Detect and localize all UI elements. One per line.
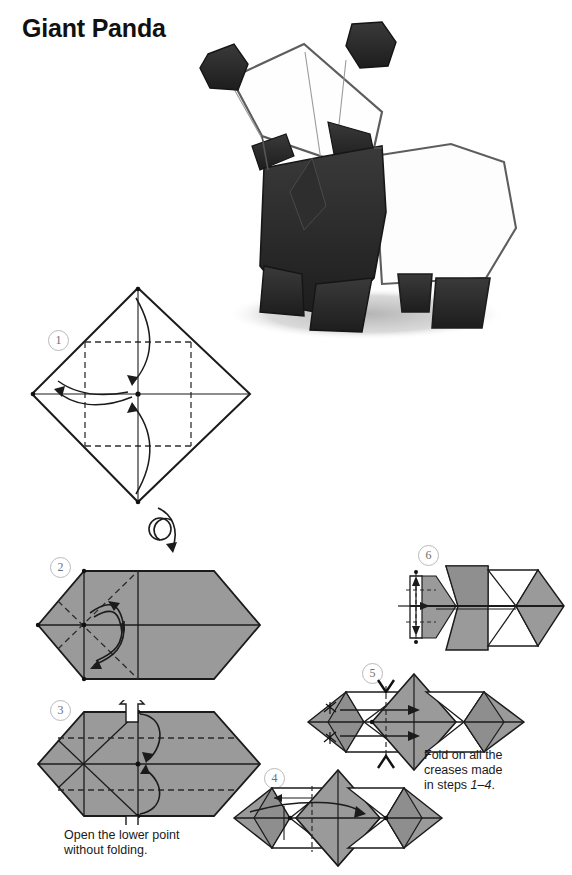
step-3-caption: Open the lower point without folding. <box>64 828 254 858</box>
step-4-diagram <box>228 766 448 874</box>
step-5-caption-line-3: in steps 1–4. <box>424 778 564 793</box>
step-3-hollow-arrow-down <box>120 816 144 825</box>
step-1-diagram <box>28 282 268 510</box>
step-5-dot-center <box>370 720 374 724</box>
step-4-dot-left <box>288 816 293 821</box>
step-6-diagram <box>396 556 572 660</box>
step-4-dot-right <box>384 816 389 821</box>
step-5-caption-line-1: Fold on all the <box>424 748 564 763</box>
step-1-dot-center <box>135 391 140 396</box>
instruction-page: Giant Panda <box>0 0 572 875</box>
step-5-caption-line-3-pre: in steps <box>424 778 471 792</box>
panda-ear-left <box>200 44 248 90</box>
step-3-dot-center <box>136 762 141 767</box>
step-6-dot-bottom <box>414 640 418 644</box>
step-1-dot-top <box>136 287 141 292</box>
step-5-caption: Fold on all the creases made in steps 1–… <box>424 748 564 793</box>
step-5-caption-line-2: creases made <box>424 763 564 778</box>
turn-over-icon <box>138 500 198 560</box>
step-2-dot-bottom <box>82 677 86 681</box>
step-3-caption-line-2: without folding. <box>64 843 254 858</box>
panda-ear-right <box>346 22 396 68</box>
step-5-caption-line-3-post: . <box>491 778 494 792</box>
step-5-pinch-bottom-icon <box>378 756 394 768</box>
panda-rear-body <box>374 144 516 284</box>
step-5-caption-steps-range: 1–4 <box>471 778 492 792</box>
panda-front-leg-right <box>310 278 372 332</box>
step-1-paper <box>32 288 250 502</box>
step-2-dot-top <box>82 569 86 573</box>
step-2-dot-left <box>36 623 40 627</box>
step-2-diagram <box>28 565 268 685</box>
step-6-dot-top <box>414 570 418 574</box>
page-title: Giant Panda <box>22 14 166 43</box>
step-1-dot-left <box>31 392 36 397</box>
panda-rear-leg-far <box>398 274 432 312</box>
step-2-dot-center <box>82 623 87 628</box>
panda-rear-leg-near <box>432 278 490 328</box>
step-3-caption-line-1: Open the lower point <box>64 828 254 843</box>
